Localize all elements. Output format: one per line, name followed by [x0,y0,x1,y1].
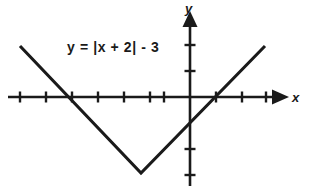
absolute-value-curve [20,46,265,173]
x-axis-label: x [292,91,299,104]
equation-annotation: y = |x + 2| - 3 [67,40,159,54]
y-axis-label: y [185,2,192,15]
x-axis [8,90,289,105]
y-axis [183,11,198,186]
absolute-value-graph-figure: x y y = |x + 2| - 3 [0,0,311,195]
x-axis-arrow-icon [272,90,289,105]
coordinate-plane [0,0,311,195]
